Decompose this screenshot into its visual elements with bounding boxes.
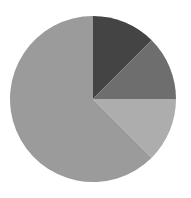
pie-chart bbox=[0, 0, 191, 198]
pie-slices bbox=[10, 16, 176, 182]
